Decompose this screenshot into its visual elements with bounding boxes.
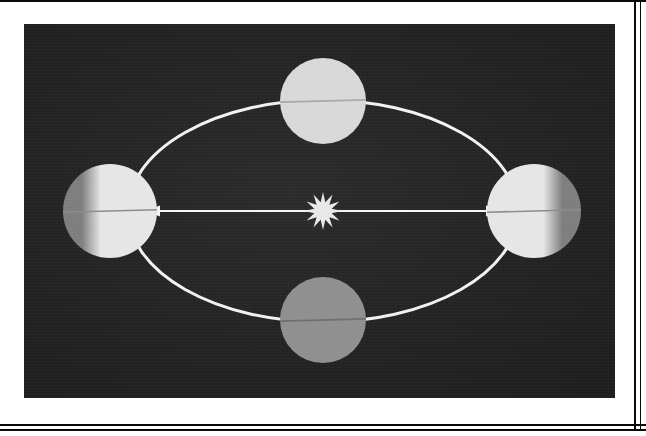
frame-rule-top xyxy=(0,0,646,2)
planet-left xyxy=(62,164,158,258)
orbit-diagram xyxy=(24,24,615,398)
planet-top xyxy=(279,58,367,144)
planet-right xyxy=(486,164,582,258)
frame-rule-right-outer xyxy=(634,0,636,430)
frame-rule-bottom-inner xyxy=(0,429,646,431)
frame-rule-right-inner xyxy=(640,0,641,430)
planet-bottom xyxy=(279,277,367,363)
diagram-plate xyxy=(24,24,615,398)
page-canvas: Earth's orbit around the Sun showing axi… xyxy=(0,0,646,436)
sun-starburst-icon xyxy=(304,192,342,230)
frame-rule-bottom-outer xyxy=(0,424,646,426)
